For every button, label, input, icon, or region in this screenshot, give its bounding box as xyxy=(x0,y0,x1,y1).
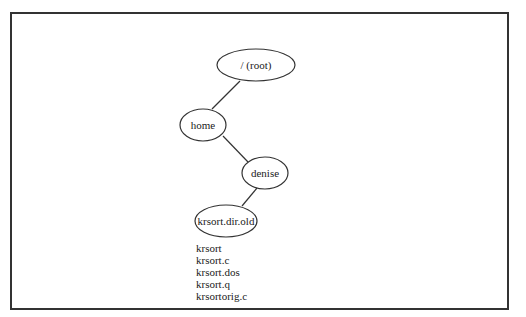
file-list: krsort krsort.c krsort.dos krsort.q krso… xyxy=(196,242,247,302)
node-root: / (root) xyxy=(217,49,295,81)
node-home: home xyxy=(180,109,226,141)
file-item: krsort.c xyxy=(196,254,247,266)
node-denise-label: denise xyxy=(251,167,279,179)
file-item: krsortorig.c xyxy=(196,290,247,302)
file-item: krsort.dos xyxy=(196,266,247,278)
node-krsort-dir-old-label: krsort.dir.old xyxy=(198,215,255,227)
file-item: krsort.q xyxy=(196,278,247,290)
node-root-label: / (root) xyxy=(241,59,272,72)
node-denise: denise xyxy=(242,157,288,189)
node-home-label: home xyxy=(191,119,216,131)
edge-denise-krsort-dir-old xyxy=(242,188,257,206)
file-item: krsort xyxy=(196,242,247,254)
node-krsort-dir-old: krsort.dir.old xyxy=(195,205,257,237)
directory-tree-diagram: / (root) home denise krsort.dir.old xyxy=(0,0,526,317)
edge-home-denise xyxy=(223,136,248,162)
edge-root-home xyxy=(212,81,240,109)
